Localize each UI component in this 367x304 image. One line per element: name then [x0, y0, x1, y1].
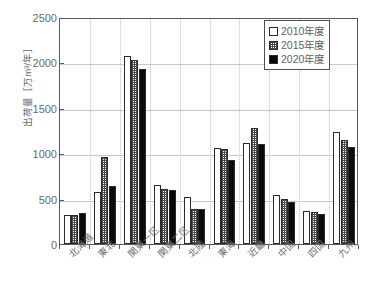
- bar-2015年度-近畿: [251, 128, 258, 244]
- y-tick-label: 1000: [5, 148, 57, 160]
- y-tick-mark: [59, 200, 64, 201]
- y-tick-label: 1500: [5, 103, 57, 115]
- y-axis-ticks: 05001000150020002500: [0, 0, 57, 304]
- legend-swatch-2015: [269, 41, 278, 50]
- legend-item: 2015年度: [269, 38, 324, 52]
- bar-2015年度-関東一区: [131, 60, 138, 244]
- y-tick-label: 0: [5, 239, 57, 251]
- bar-chart: 出荷量［万m³/年］ 05001000150020002500 北海道東北関東一…: [0, 0, 367, 304]
- legend-label-2010: 2010年度: [281, 26, 324, 37]
- category-separator: [239, 19, 240, 244]
- y-tick-label: 2000: [5, 57, 57, 69]
- bar-2010年度-東海: [214, 148, 221, 244]
- bar-2010年度-九州: [333, 132, 340, 244]
- bar-2020年度-関東一区: [139, 69, 146, 244]
- x-tick-mark: [328, 245, 329, 249]
- legend-label-2020: 2020年度: [281, 54, 324, 65]
- x-tick-mark: [268, 245, 269, 249]
- bar-2010年度-東北: [94, 192, 101, 244]
- bar-2020年度-近畿: [258, 144, 265, 244]
- x-tick-mark: [238, 245, 239, 249]
- bar-2020年度-東北: [109, 186, 116, 244]
- x-tick-mark: [149, 245, 150, 249]
- legend-label-2015: 2015年度: [281, 40, 324, 51]
- x-tick-mark: [119, 245, 120, 249]
- y-tick-mark: [59, 63, 64, 64]
- y-tick-label: 500: [5, 194, 57, 206]
- y-tick-mark: [59, 154, 64, 155]
- category-separator: [150, 19, 151, 244]
- y-tick-mark: [59, 109, 64, 110]
- gridline: [60, 110, 357, 111]
- bar-2015年度-東北: [101, 157, 108, 244]
- legend-item: 2020年度: [269, 52, 324, 66]
- bar-2020年度-九州: [348, 147, 355, 244]
- bar-2020年度-東海: [228, 160, 235, 244]
- x-tick-mark: [209, 245, 210, 249]
- chart-legend: 2010年度 2015年度 2020年度: [264, 20, 330, 70]
- bar-2015年度-東海: [221, 149, 228, 244]
- bar-2010年度-近畿: [243, 143, 250, 244]
- bar-2015年度-九州: [341, 140, 348, 244]
- category-separator: [210, 19, 211, 244]
- y-tick-label: 2500: [5, 12, 57, 24]
- x-tick-mark: [179, 245, 180, 249]
- legend-swatch-2020: [269, 55, 278, 64]
- category-separator: [180, 19, 181, 244]
- bar-2010年度-関東一区: [124, 56, 131, 244]
- legend-item: 2010年度: [269, 24, 324, 38]
- y-tick-mark: [59, 18, 64, 19]
- legend-swatch-2010: [269, 27, 278, 36]
- category-separator: [90, 19, 91, 244]
- bar-2010年度-中国: [273, 195, 280, 244]
- bar-2010年度-四国: [303, 211, 310, 244]
- x-tick-mark: [59, 245, 60, 249]
- x-tick-mark: [298, 245, 299, 249]
- category-separator: [120, 19, 121, 244]
- bar-2010年度-北海道: [64, 215, 71, 244]
